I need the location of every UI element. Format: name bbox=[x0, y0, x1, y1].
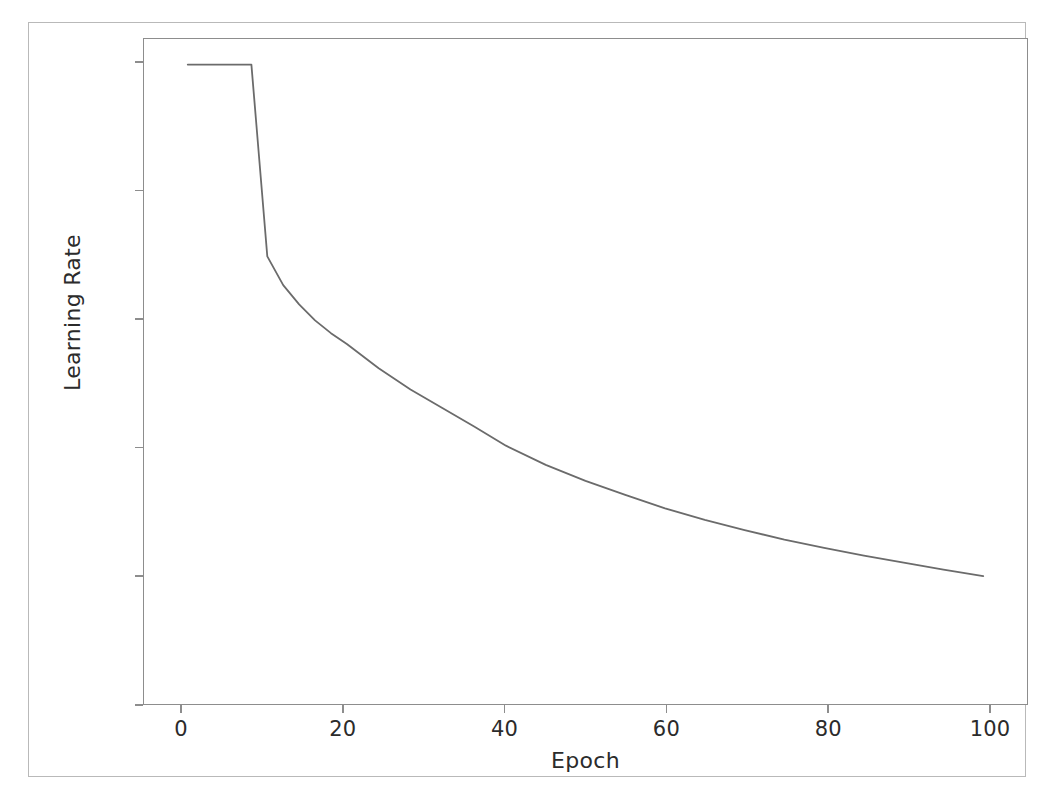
y-tick-mark bbox=[135, 190, 143, 192]
x-tick-mark bbox=[504, 705, 506, 713]
x-tick-label: 80 bbox=[768, 717, 888, 741]
x-tick-label: 0 bbox=[121, 717, 241, 741]
x-tick-label: 60 bbox=[606, 717, 726, 741]
learning-rate-line bbox=[188, 65, 983, 577]
y-axis-label: Learning Rate bbox=[60, 183, 85, 443]
y-tick-mark bbox=[135, 61, 143, 63]
y-tick-mark bbox=[135, 575, 143, 577]
x-tick-label: 100 bbox=[930, 717, 1050, 741]
y-tick-mark bbox=[135, 704, 143, 706]
x-tick-label: 20 bbox=[283, 717, 403, 741]
x-tick-mark bbox=[342, 705, 344, 713]
x-tick-mark bbox=[989, 705, 991, 713]
y-tick-mark bbox=[135, 318, 143, 320]
learning-rate-chart-figure: 0.0000 0.0002 0.0004 0.0006 0.0008 0.001… bbox=[0, 0, 1055, 800]
x-tick-mark bbox=[180, 705, 182, 713]
x-tick-label: 40 bbox=[445, 717, 565, 741]
y-tick-mark bbox=[135, 447, 143, 449]
x-axis-label: Epoch bbox=[143, 748, 1028, 773]
x-tick-mark bbox=[666, 705, 668, 713]
x-tick-mark bbox=[827, 705, 829, 713]
plot-area bbox=[143, 38, 1028, 705]
learning-rate-line-svg bbox=[144, 39, 1027, 704]
